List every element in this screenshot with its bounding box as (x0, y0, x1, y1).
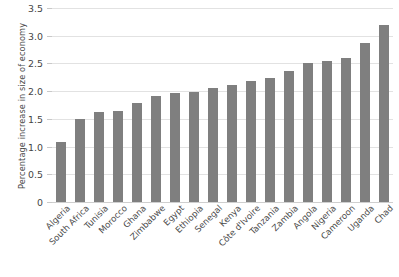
x-tick-label: Chad (372, 203, 395, 226)
bar[interactable] (151, 96, 161, 202)
bar[interactable] (246, 81, 256, 202)
bar[interactable] (75, 119, 85, 202)
bar[interactable] (284, 71, 294, 202)
bar[interactable] (208, 88, 218, 202)
bar[interactable] (322, 61, 332, 202)
bar-slot (317, 8, 336, 202)
bar-chart: Percentage increase in size of economy 0… (0, 0, 399, 277)
bar[interactable] (379, 25, 389, 202)
bar-slot (52, 8, 71, 202)
bar[interactable] (94, 112, 104, 202)
bar-slot (279, 8, 298, 202)
bar-slot (147, 8, 166, 202)
bar-series (52, 8, 393, 202)
bar-slot (90, 8, 109, 202)
bar-slot (185, 8, 204, 202)
bar[interactable] (170, 93, 180, 202)
y-tick-label: 2.5 (28, 58, 43, 69)
bar-slot (109, 8, 128, 202)
bar[interactable] (189, 92, 199, 202)
bar-slot (336, 8, 355, 202)
bar[interactable] (132, 103, 142, 202)
bar[interactable] (56, 142, 66, 202)
bar-slot (128, 8, 147, 202)
bar[interactable] (113, 111, 123, 202)
bar[interactable] (265, 78, 275, 202)
y-tick-label: 2.0 (28, 86, 43, 97)
bar-slot (204, 8, 223, 202)
bar-slot (260, 8, 279, 202)
y-tick-label: 0.5 (28, 169, 43, 180)
y-tick-label: 1.0 (28, 141, 43, 152)
bar-slot (298, 8, 317, 202)
bar[interactable] (360, 43, 370, 202)
y-axis-title: Percentage increase in size of economy (17, 6, 27, 206)
y-tick-label: 0 (37, 197, 43, 208)
bar-slot (166, 8, 185, 202)
bar[interactable] (341, 58, 351, 202)
bar[interactable] (227, 85, 237, 203)
y-tick-label: 1.5 (28, 113, 43, 124)
bar-slot (355, 8, 374, 202)
y-tick-label: 3.0 (28, 30, 43, 41)
y-tick-label: 3.5 (28, 3, 43, 14)
bar[interactable] (303, 63, 313, 202)
plot-area: 00.51.01.52.02.53.03.5 (52, 8, 393, 202)
bar-slot (223, 8, 242, 202)
bar-slot (241, 8, 260, 202)
bar-slot (374, 8, 393, 202)
x-axis-labels: AlgeriaSouth AfricaTunisiaMoroccoGhanaZi… (52, 203, 393, 277)
bar-slot (71, 8, 90, 202)
